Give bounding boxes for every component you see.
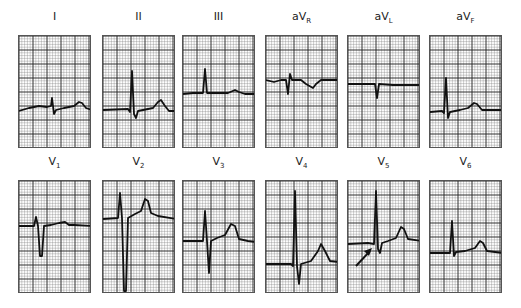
lead-label: V3 [182, 155, 255, 170]
ecg-grid-panel [182, 180, 255, 293]
ecg-grid-panel [347, 180, 420, 293]
lead-label: aVF [429, 10, 502, 25]
lead-label: III [182, 10, 255, 23]
lead-label: aVR [265, 10, 338, 25]
ecg-grid-panel [102, 180, 175, 293]
ecg-grid-panel [265, 180, 338, 293]
lead-label: II [102, 10, 175, 23]
lead-label: V1 [18, 155, 91, 170]
lead-label: I [18, 10, 91, 23]
ecg-grid-panel [429, 35, 502, 148]
lead-label: V5 [347, 155, 420, 170]
ecg-grid-panel [18, 35, 91, 148]
ecg-grid-panel [347, 35, 420, 148]
ecg-grid-panel [429, 180, 502, 293]
ecg-grid-panel [102, 35, 175, 148]
ecg-grid-panel [182, 35, 255, 148]
lead-label: V4 [265, 155, 338, 170]
ecg-grid-panel [265, 35, 338, 148]
ecg-grid-panel [18, 180, 91, 293]
lead-label: V2 [102, 155, 175, 170]
lead-label: aVL [347, 10, 420, 25]
lead-label: V6 [429, 155, 502, 170]
